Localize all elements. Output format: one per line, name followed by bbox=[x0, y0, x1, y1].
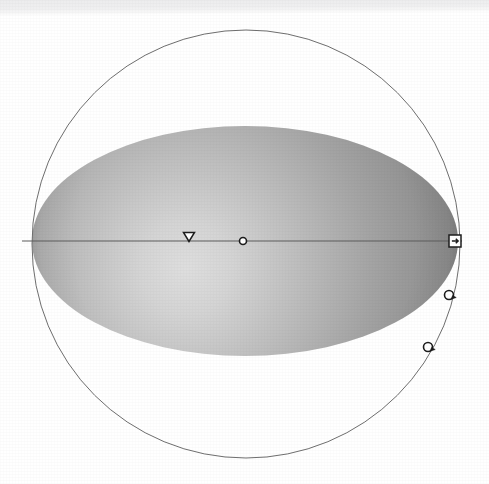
square-handle-icon[interactable] bbox=[449, 235, 461, 247]
circle-handle-icon[interactable] bbox=[240, 238, 247, 245]
sphere-gizmo-canvas[interactable]: Sphere manipulator gizmo bbox=[0, 0, 489, 484]
sphere-gizmo-svg[interactable] bbox=[0, 0, 489, 484]
